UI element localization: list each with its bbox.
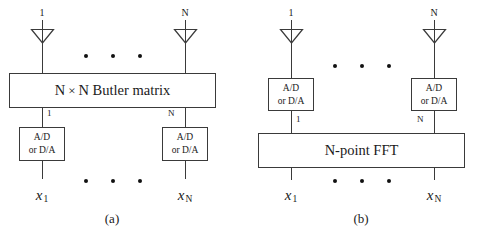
figure-canvas: 1 N N×N Butler matrix (0, 0, 491, 236)
panel-a-converter-n-block: A/D or D/A (162, 127, 208, 161)
panel-b-antenna-1-feed-line (291, 29, 292, 78)
panel-b-signal-n-subscript: N (434, 194, 441, 204)
panel-a-antenna-n-port-label: N (165, 8, 205, 18)
panel-b-output-wire-1 (291, 168, 292, 180)
dot-icon (84, 54, 88, 58)
panel-a-antenna-1-port-label: 1 (22, 8, 62, 18)
panel-a-conv-n-input-wire (185, 108, 186, 127)
panel-b-signal-1-symbol: x (285, 187, 292, 203)
panel-b-top-ellipsis (333, 63, 391, 68)
panel-b-converter-1-block: A/D or D/A (268, 78, 314, 111)
dot-icon (111, 54, 115, 58)
panel-a-conv-n-output-wire (185, 161, 186, 179)
dot-icon (387, 64, 391, 68)
panel-a-conv-1-wire-label: 1 (47, 109, 52, 118)
panel-a-signal-n-label: xN (165, 188, 205, 203)
panel-a-conv-1-output-wire (42, 161, 43, 179)
fft-block: N-point FFT (258, 133, 465, 168)
panel-b-antenna-n-port-label: N (414, 8, 454, 18)
dot-icon (84, 179, 88, 183)
dot-icon (360, 179, 364, 183)
panel-b-antenna-n-feed-line (434, 29, 435, 78)
panel-b-signal-n-symbol: x (427, 187, 434, 203)
butler-matrix-label-rest: N Butler matrix (79, 82, 171, 98)
multiplication-sign-icon: × (68, 83, 75, 98)
panel-a-signal-1-subscript: 1 (43, 194, 48, 204)
panel-b-bottom-ellipsis (333, 178, 391, 183)
dot-icon (333, 64, 337, 68)
butler-matrix-label: N×N Butler matrix (55, 82, 171, 99)
panel-a-signal-1-symbol: x (36, 187, 43, 203)
panel-a-converter-1-block: A/D or D/A (19, 127, 65, 161)
dot-icon (387, 179, 391, 183)
panel-b-converter-n-line2: or D/A (421, 96, 448, 107)
dot-icon (138, 54, 142, 58)
panel-a-top-ellipsis (84, 53, 142, 58)
panel-b-converter-1-line2: or D/A (278, 96, 305, 107)
butler-matrix-block: N×N Butler matrix (9, 73, 216, 108)
panel-b-antenna-1-port-label: 1 (271, 8, 311, 18)
dot-icon (138, 179, 142, 183)
panel-b-signal-n-label: xN (414, 188, 454, 203)
panel-b-converter-n-block: A/D or D/A (411, 78, 457, 111)
panel-a-converter-n-line1: A/D (177, 132, 193, 143)
panel-a-signal-n-subscript: N (185, 194, 192, 204)
panel-a-antenna-n-feed-line (185, 29, 186, 73)
panel-a-converter-n-line2: or D/A (172, 145, 199, 156)
panel-b-signal-1-subscript: 1 (292, 194, 297, 204)
panel-a-conv-1-input-wire (42, 108, 43, 127)
panel-b-conv-1-output-wire (291, 111, 292, 133)
panel-a-antenna-1-feed-line (42, 29, 43, 73)
panel-a-converter-1-line2: or D/A (29, 145, 56, 156)
panel-a-caption: (a) (82, 212, 142, 225)
butler-matrix-label-n: N (55, 82, 65, 98)
panel-b-output-wire-n (434, 168, 435, 180)
panel-a-signal-1-label: x1 (22, 188, 62, 203)
panel-a-signal-n-symbol: x (178, 187, 185, 203)
panel-b-conv-n-output-wire (434, 111, 435, 133)
panel-a-converter-1-line1: A/D (34, 132, 50, 143)
panel-a-conv-n-wire-label: N (168, 109, 175, 118)
panel-b-converter-1-line1: A/D (283, 83, 299, 94)
panel-b-conv-n-wire-label: N (417, 115, 424, 124)
dot-icon (333, 179, 337, 183)
panel-b-signal-1-label: x1 (271, 188, 311, 203)
dot-icon (111, 179, 115, 183)
dot-icon (360, 64, 364, 68)
panel-b-caption: (b) (331, 212, 391, 225)
panel-a-bottom-ellipsis (84, 178, 142, 183)
panel-b-converter-n-line1: A/D (426, 83, 442, 94)
fft-block-label: N-point FFT (325, 142, 399, 159)
panel-b-conv-1-wire-label: 1 (296, 115, 301, 124)
